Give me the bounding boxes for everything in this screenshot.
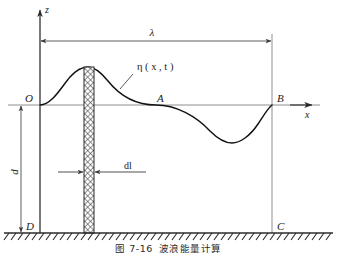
- eta-leader-line: [120, 74, 133, 89]
- fluid-element-column: [84, 67, 94, 233]
- seabed: [4, 233, 333, 240]
- element-width-label: dl: [124, 160, 132, 171]
- figure-caption: 图 7-16波浪能量计算: [0, 242, 337, 253]
- figure-caption-number: 图 7-16: [115, 243, 153, 253]
- surface-elevation-label: η ( x , t ): [137, 61, 174, 73]
- point-label-origin: O: [25, 92, 33, 104]
- point-label-d: D: [25, 220, 34, 232]
- z-axis-label: z: [44, 4, 49, 15]
- boundary-lines: [40, 14, 272, 233]
- point-label-a: A: [156, 92, 164, 104]
- depth-label: d: [8, 169, 20, 175]
- figure-container: z x λ η ( x , t ) dl d O A B C D 图 7-16波…: [0, 0, 337, 253]
- point-label-c: C: [277, 220, 285, 232]
- point-label-b: B: [277, 92, 284, 104]
- wavelength-label: λ: [149, 26, 155, 38]
- x-axis-label: x: [304, 109, 310, 120]
- wave-energy-diagram: z x λ η ( x , t ) dl d O A B C D: [0, 0, 337, 253]
- figure-caption-text: 波浪能量计算: [159, 243, 222, 253]
